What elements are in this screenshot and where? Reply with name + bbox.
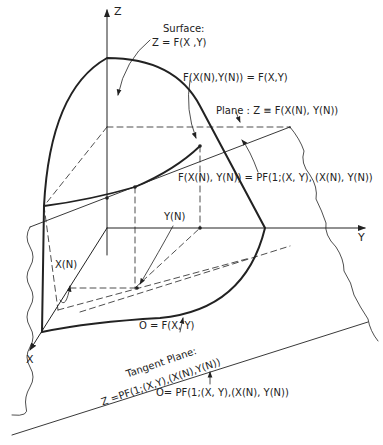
tangent-equation: F(X(N), Y(N)) = PF(1;(X, Y), (X(N), Y(N)… [178,173,373,183]
point-equation: F(X(N),Y(N)) = F(X,Y) [183,73,288,83]
yn-label: Y(N) [164,212,185,222]
y-axis-label: Y [358,232,365,243]
surface-outline [42,58,265,332]
plane-left-edge [12,227,33,415]
z-axis-label: Z [114,6,122,17]
x-axis-label: X [26,354,34,365]
xn-label: X(N) [55,260,77,270]
surface-equation: Z = F(X ,Y) [152,38,206,48]
zero-surface-label: O = F(X, Y) [139,321,194,331]
plane-equation: Plane : Z ≡ F(X(N), Y(N)) [216,106,338,116]
tangent-plane-diagram: Z Y X Surface: Z = F(X ,Y) F(X(N),Y(N)) … [0,0,383,445]
surface-title: Surface: [163,24,204,34]
surface-section-curve [44,146,200,206]
zero-tangent-label: O= PF(1;(X, Y),(X(N), Y(N)) [156,388,289,398]
diagram-graphics [0,0,383,445]
